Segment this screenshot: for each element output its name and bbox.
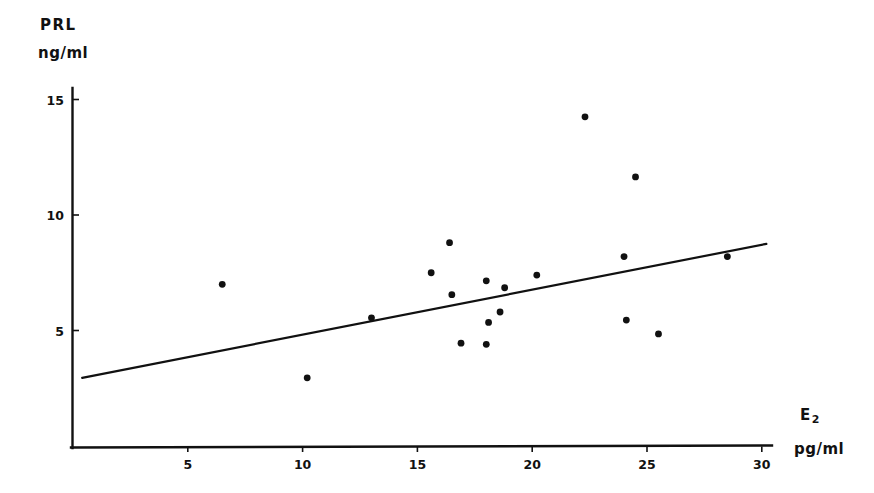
x-tick-label: 10 [294,457,311,472]
y-tick-label: 5 [40,323,64,338]
data-point [533,272,540,279]
x-axis-title: E2 [800,406,819,426]
x-tick-label: 30 [753,457,770,472]
x-tick-label: 15 [409,457,426,472]
data-point [448,291,455,298]
x-tick-label: 5 [183,457,192,472]
data-point [428,269,435,276]
data-point [304,374,311,381]
data-point [724,253,731,260]
x-axis-title-subscript: 2 [811,413,820,426]
data-point [485,319,492,326]
data-point [621,253,628,260]
data-point [483,341,490,348]
axis-lines [71,88,772,448]
data-point [501,284,508,291]
data-point [219,281,226,288]
data-point [458,340,465,347]
y-tick-label: 15 [40,92,64,107]
x-axis-title-text: E [800,406,811,424]
y-axis-unit-label: ng/ml [38,44,88,62]
data-point [483,277,490,284]
data-point [368,314,375,321]
x-axis-unit-label: pg/ml [794,440,844,458]
data-point [497,309,504,316]
data-point [582,113,589,120]
data-points-group [219,113,731,381]
y-axis-title: PRL [40,16,77,34]
data-point [446,239,453,246]
data-point [655,331,662,338]
scatter-plot-figure: PRL ng/ml E2 pg/ml 5101551015202530 [0,0,874,493]
data-point [632,173,639,180]
regression-line [82,244,766,378]
plot-canvas [0,0,874,493]
data-point [623,317,630,324]
y-tick-label: 10 [40,208,64,223]
x-tick-label: 20 [523,457,540,472]
x-axis-line [71,446,772,448]
x-tick-label: 25 [638,457,655,472]
regression-trend-line [82,244,766,378]
